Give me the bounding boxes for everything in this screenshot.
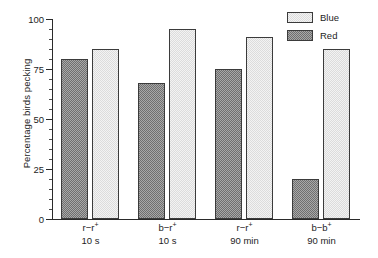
x-group-duration: 10 s	[129, 235, 206, 248]
y-tick-label: 0	[39, 214, 44, 225]
bar-blue-4	[323, 49, 350, 219]
x-group-duration: 10 s	[52, 235, 129, 248]
x-group-superscript: +	[328, 221, 332, 228]
x-axis-labels: r−r+10 sb−r+10 sr−r+90 minb−b+90 min	[52, 222, 360, 256]
x-group-condition: r−r+	[52, 222, 129, 235]
y-tick-label: 100	[28, 14, 44, 25]
x-group-condition: r−r+	[206, 222, 283, 235]
bars-layer	[52, 19, 360, 219]
x-group-condition: b−r+	[129, 222, 206, 235]
legend-label-blue: Blue	[320, 12, 339, 23]
x-group-duration: 90 min	[283, 235, 360, 248]
legend-swatch-red	[287, 30, 313, 41]
legend-swatch-blue	[287, 12, 313, 23]
y-tick-mark	[46, 219, 52, 220]
y-axis-title: Percentage birds pecking	[21, 14, 32, 214]
legend-item-blue: Blue	[287, 10, 377, 24]
bar-chart: Percentage birds pecking 0255075100 r−r+…	[0, 0, 378, 258]
chart-legend: BlueRed	[287, 10, 377, 46]
x-axis-line	[52, 219, 360, 220]
bar-red-4	[292, 179, 319, 219]
legend-item-red: Red	[287, 28, 377, 42]
x-group-superscript: +	[94, 221, 98, 228]
x-group-superscript: +	[248, 221, 252, 228]
y-tick-label: 75	[33, 64, 44, 75]
bar-blue-2	[169, 29, 196, 219]
bar-blue-3	[246, 37, 273, 219]
x-group-duration: 90 min	[206, 235, 283, 248]
x-group-label-1: r−r+10 s	[52, 222, 129, 247]
y-tick-label: 50	[33, 114, 44, 125]
x-group-label-3: r−r+90 min	[206, 222, 283, 247]
plot-area: 0255075100	[52, 19, 360, 219]
x-group-label-4: b−b+90 min	[283, 222, 360, 247]
bar-red-1	[61, 59, 88, 219]
x-group-condition: b−b+	[283, 222, 360, 235]
y-tick-label: 25	[33, 164, 44, 175]
bar-red-3	[215, 69, 242, 219]
x-group-superscript: +	[172, 221, 176, 228]
x-group-label-2: b−r+10 s	[129, 222, 206, 247]
bar-blue-1	[92, 49, 119, 219]
legend-label-red: Red	[320, 30, 337, 41]
bar-red-2	[138, 83, 165, 219]
